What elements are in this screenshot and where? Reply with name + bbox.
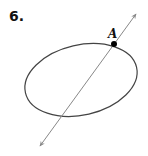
point-a	[111, 41, 117, 47]
line-with-arrows	[40, 14, 136, 146]
ellipse-curve	[18, 33, 145, 127]
ellipse-line-diagram	[0, 0, 148, 156]
point-a-label: A	[108, 27, 117, 41]
